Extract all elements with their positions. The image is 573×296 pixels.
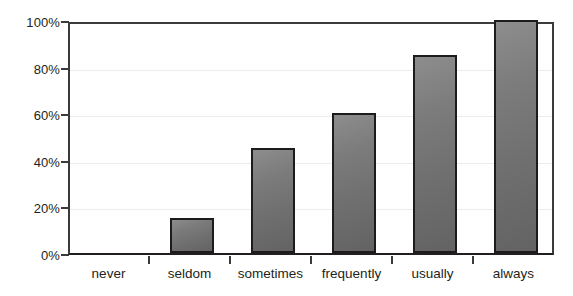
x-axis-label-frequently: frequently [311, 266, 392, 282]
bar-slot [151, 24, 232, 253]
bar-slot [394, 24, 475, 253]
x-axis-label-sometimes: sometimes [230, 266, 311, 282]
y-axis-tick-label: 100% [0, 16, 60, 29]
x-axis-tick-mark [310, 256, 312, 264]
bar-slot [475, 24, 556, 253]
y-axis-tick-label: 0% [0, 249, 60, 262]
bar-slot [70, 24, 151, 253]
x-axis-tick-mark [229, 256, 231, 264]
x-axis-tick-mark [391, 256, 393, 264]
x-axis-labels: neverseldomsometimesfrequentlyusuallyalw… [68, 266, 554, 288]
bar-slot [232, 24, 313, 253]
x-axis-label-never: never [68, 266, 149, 282]
bar-usually[interactable] [413, 55, 457, 253]
x-axis-tick-mark [148, 256, 150, 264]
y-axis-tick-label: 60% [0, 109, 60, 122]
y-axis-tick-label: 80% [0, 63, 60, 76]
plot-area [68, 22, 554, 255]
bar-chart: 0%20%40%60%80%100% neverseldomsometimesf… [0, 0, 573, 296]
bar-frequently[interactable] [332, 113, 376, 253]
x-axis-tick-mark [472, 256, 474, 264]
y-axis-tick-label: 40% [0, 156, 60, 169]
x-axis-label-always: always [473, 266, 554, 282]
bar-seldom[interactable] [170, 218, 214, 253]
y-axis-labels: 0%20%40%60%80%100% [0, 0, 60, 296]
bar-always[interactable] [494, 20, 538, 253]
x-axis-label-seldom: seldom [149, 266, 230, 282]
bar-slot [313, 24, 394, 253]
y-axis-tick-label: 20% [0, 202, 60, 215]
bar-sometimes[interactable] [251, 148, 295, 253]
x-axis-label-usually: usually [392, 266, 473, 282]
